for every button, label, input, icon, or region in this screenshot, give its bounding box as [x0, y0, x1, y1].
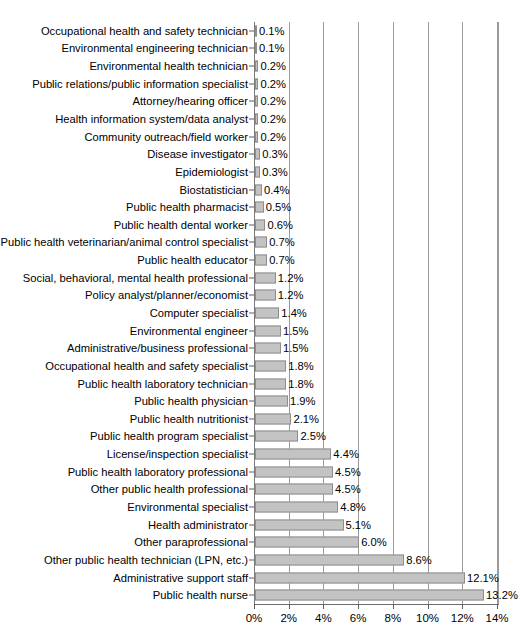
category-label: Public health program specialist [90, 430, 248, 443]
bar [255, 537, 359, 548]
bar [255, 255, 267, 266]
bar [255, 325, 281, 336]
y-tick-mark [249, 48, 254, 49]
category-label: Health administrator [148, 518, 248, 531]
bar [255, 501, 338, 512]
bar [255, 237, 267, 248]
category-label: Policy analyst/planner/economist [85, 289, 248, 302]
bar [255, 78, 258, 89]
bar [255, 554, 404, 565]
x-tick-mark [358, 604, 359, 609]
bar [255, 272, 276, 283]
y-tick-mark [249, 506, 254, 507]
category-label: Community outreach/field worker [84, 130, 248, 143]
category-label: Public health educator [137, 254, 248, 267]
category-label: Environmental engineering technician [61, 42, 248, 55]
category-label: Public health laboratory professional [68, 465, 248, 478]
bar-row: Public health nurse13.2% [0, 586, 532, 604]
bar-row: Public health physician1.9% [0, 392, 532, 410]
category-label: Public health veterinarian/animal contro… [1, 236, 249, 249]
bar-value-label: 8.6% [406, 553, 432, 566]
bar-row: Environmental engineering technician0.1% [0, 40, 532, 58]
bar [255, 202, 264, 213]
bar-value-label: 4.8% [340, 500, 366, 513]
y-tick-mark [249, 454, 254, 455]
bar [255, 413, 291, 424]
y-tick-mark [249, 66, 254, 67]
y-tick-mark [249, 260, 254, 261]
bar [255, 131, 258, 142]
bar-value-label: 1.2% [278, 271, 304, 284]
category-label: Environmental health technician [89, 60, 248, 73]
x-tick-mark [323, 604, 324, 609]
bar-row: Policy analyst/planner/economist1.2% [0, 287, 532, 305]
bar-row: Epidemiologist0.3% [0, 163, 532, 181]
bar [255, 484, 333, 495]
bar [255, 396, 288, 407]
x-tick-mark [428, 604, 429, 609]
category-label: Public relations/public information spec… [32, 77, 248, 90]
y-tick-mark [249, 189, 254, 190]
x-tick-label: 14% [477, 611, 517, 625]
bar-value-label: 12.1% [467, 571, 499, 584]
y-tick-mark [249, 524, 254, 525]
bar [255, 343, 281, 354]
bar-value-label: 0.6% [267, 218, 293, 231]
category-label: Other public health professional [91, 483, 248, 496]
bar [255, 43, 257, 54]
y-tick-mark [249, 365, 254, 366]
bar-row: Public health dental worker0.6% [0, 216, 532, 234]
bar-value-label: 1.8% [288, 359, 314, 372]
y-tick-mark [249, 101, 254, 102]
bar-row: Occupational health and safety technicia… [0, 22, 532, 40]
bar-row: Other public health technician (LPN, etc… [0, 551, 532, 569]
bar-row: Computer specialist1.4% [0, 304, 532, 322]
bar-value-label: 2.1% [293, 412, 319, 425]
bar [255, 290, 276, 301]
bar-row: Public health educator0.7% [0, 251, 532, 269]
bar [255, 572, 465, 583]
bar [255, 590, 484, 601]
bar-value-label: 0.4% [264, 183, 290, 196]
bar-row: Administrative support staff12.1% [0, 569, 532, 587]
bar-value-label: 0.7% [269, 254, 295, 267]
category-label: Administrative support staff [113, 571, 248, 584]
y-tick-mark [249, 154, 254, 155]
bar [255, 61, 258, 72]
bar [255, 96, 258, 107]
category-label: Attorney/hearing officer [133, 95, 248, 108]
bar-row: Public relations/public information spec… [0, 75, 532, 93]
y-tick-mark [249, 30, 254, 31]
category-label: Other paraprofessional [134, 536, 248, 549]
bar [255, 466, 333, 477]
bar-row: Public health laboratory technician1.8% [0, 375, 532, 393]
bar [255, 149, 260, 160]
category-label: Administrative/business professional [67, 342, 248, 355]
y-tick-mark [249, 83, 254, 84]
bar-value-label: 1.8% [288, 377, 314, 390]
bar-value-label: 1.2% [278, 289, 304, 302]
category-label: Other public health technician (LPN, etc… [44, 553, 248, 566]
bar-row: Social, behavioral, mental health profes… [0, 269, 532, 287]
bar-row: Public health laboratory professional4.5… [0, 463, 532, 481]
bar [255, 360, 286, 371]
bar [255, 378, 286, 389]
bar-row: Community outreach/field worker0.2% [0, 128, 532, 146]
bar-row: Environmental specialist4.8% [0, 498, 532, 516]
category-label: Social, behavioral, mental health profes… [23, 271, 248, 284]
bar-row: Attorney/hearing officer0.2% [0, 93, 532, 111]
bar-value-label: 0.1% [259, 42, 285, 55]
y-tick-mark [249, 118, 254, 119]
y-tick-mark [249, 595, 254, 596]
bar-value-label: 1.5% [283, 324, 309, 337]
category-label: Public health physician [134, 395, 248, 408]
bar-row: Other public health professional4.5% [0, 481, 532, 499]
bar-value-label: 0.2% [260, 60, 286, 73]
bar [255, 25, 257, 36]
y-tick-mark [249, 224, 254, 225]
bar [255, 184, 262, 195]
x-tick-mark [393, 604, 394, 609]
x-tick-mark [462, 604, 463, 609]
y-tick-mark [249, 312, 254, 313]
bar-row: Public health veterinarian/animal contro… [0, 234, 532, 252]
